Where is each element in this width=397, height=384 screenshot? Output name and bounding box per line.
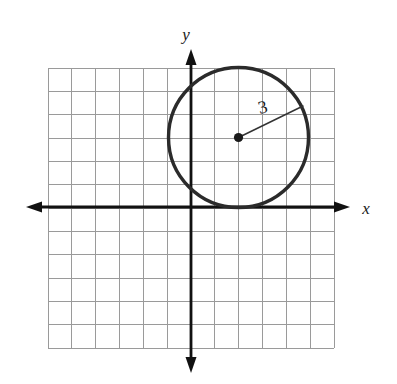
y-axis-label: y xyxy=(180,25,190,44)
coordinate-plane-figure: 3 y x xyxy=(0,0,397,384)
x-axis-label: x xyxy=(361,199,370,218)
figure-background xyxy=(0,0,397,384)
figure-container: 3 y x xyxy=(0,0,397,384)
circle-center-point xyxy=(234,133,243,142)
